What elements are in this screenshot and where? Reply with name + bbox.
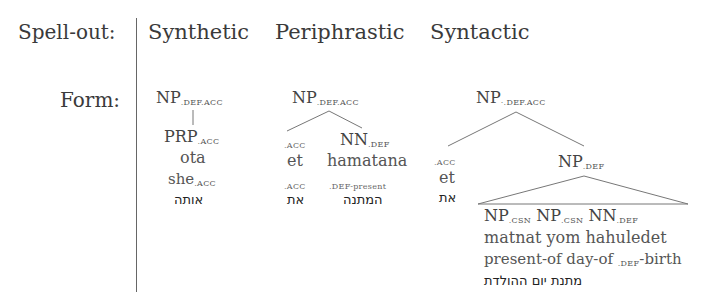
periphrastic-right-hebrew: המתנה bbox=[343, 192, 383, 207]
header-syntactic: Syntactic bbox=[430, 20, 529, 44]
syntactic-left-feat: .ACC bbox=[434, 158, 456, 167]
periphrastic-right-gloss: .DEF-present bbox=[329, 182, 386, 191]
syntactic-mid-node: NP.DEF bbox=[558, 152, 604, 171]
periphrastic-left-word: et bbox=[287, 151, 303, 170]
syntactic-words: matnat yom hahuledet bbox=[484, 228, 667, 247]
header-synthetic: Synthetic bbox=[148, 20, 249, 44]
leaf-np-1: NP.CSN bbox=[484, 206, 531, 225]
syntactic-root-node: NP·.DEF.ACC bbox=[476, 88, 546, 107]
periphrastic-left-gloss: .ACC bbox=[284, 182, 306, 191]
syntactic-leaf-nodes: NP.CSN NP.CSN NN.DEF bbox=[484, 206, 638, 225]
leaf-nn: NN.DEF bbox=[588, 206, 638, 225]
syntactic-gloss: present-of day-of .DEF-birth bbox=[484, 250, 682, 268]
spellout-label: Spell-out: bbox=[18, 20, 116, 44]
periphrastic-nn-node: NN.DEF bbox=[340, 130, 390, 149]
syntactic-hebrew: מתנת יום ההולדת bbox=[484, 273, 582, 288]
header-periphrastic: Periphrastic bbox=[275, 20, 405, 44]
leaf-np-2: NP.CSN bbox=[536, 206, 583, 225]
synthetic-root-node: NP.DEF.ACC bbox=[156, 88, 223, 107]
periphrastic-left-feat: .ACC bbox=[284, 141, 306, 150]
column-divider bbox=[136, 18, 137, 292]
synthetic-prp-node: PRP.ACC bbox=[164, 127, 219, 146]
periphrastic-root-node: NP.DEF.ACC bbox=[292, 88, 359, 107]
periphrastic-right-word: hamatana bbox=[327, 151, 407, 170]
form-label: Form: bbox=[60, 88, 120, 112]
synthetic-hebrew: אותה bbox=[174, 192, 203, 207]
synthetic-gloss: she.ACC bbox=[168, 170, 216, 188]
syntactic-left-word: et bbox=[439, 168, 455, 187]
synthetic-word: ota bbox=[180, 148, 206, 167]
periphrastic-left-hebrew: את bbox=[287, 192, 304, 207]
syntactic-left-hebrew: את bbox=[439, 190, 456, 205]
